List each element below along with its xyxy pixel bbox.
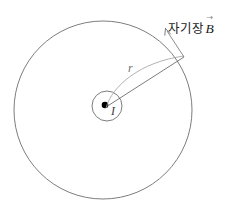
radius-line [106,57,184,107]
radius-label: r [128,62,133,74]
current-label: I [111,105,115,117]
vector-arrow-icon: → [206,14,213,22]
magnetic-field-diagram: 자기장→B r I [0,0,238,217]
magnetic-field-label: 자기장→B [168,22,213,36]
magnetic-field-text: 자기장 [168,21,203,36]
magnetic-field-symbol: →B [203,21,213,36]
outer-field-circle [14,21,192,199]
magnetic-field-symbol-text: B [205,21,213,36]
